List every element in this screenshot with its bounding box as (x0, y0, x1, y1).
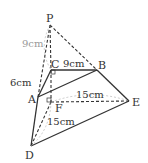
right-angle-F (47, 98, 51, 102)
edge-FE (51, 101, 129, 102)
measure-PC: 9cm (22, 38, 44, 49)
label-D: D (25, 149, 34, 162)
measure-FE: 15cm (76, 89, 104, 100)
measure-CB: 9cm (63, 58, 85, 69)
label-C: C (51, 58, 59, 71)
edge-DE (31, 101, 129, 146)
label-F: F (55, 102, 63, 115)
label-P: P (46, 12, 54, 25)
label-E: E (132, 96, 140, 109)
measure-FD: 15cm (47, 116, 75, 127)
label-A: A (27, 93, 37, 106)
edge-AC (38, 70, 51, 97)
label-B: B (98, 59, 106, 72)
figure-svg: P C B A F E D 9cm 9cm 6cm 15cm 15cm (0, 0, 148, 163)
measure-AC: 6cm (10, 77, 32, 88)
edge-PA (38, 25, 50, 97)
geometry-figure: P C B A F E D 9cm 9cm 6cm 15cm 15cm (0, 0, 148, 163)
